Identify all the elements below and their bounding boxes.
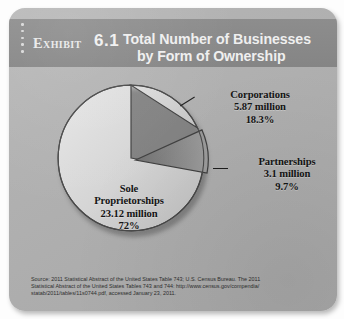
exhibit-card: Exhibit 6.1 Total Number of Businesses b…: [9, 8, 337, 311]
exhibit-number: 6.1: [94, 31, 119, 51]
label-sole-value: 23.12 million: [53, 208, 205, 220]
label-partnerships: Partnerships 3.1 million 9.7%: [227, 156, 337, 193]
leader-line-partnerships: [213, 168, 228, 169]
pie-slice-corporations: [131, 85, 198, 128]
label-sole-name-line1: Sole: [53, 183, 205, 195]
exhibit-label: Exhibit: [33, 35, 82, 52]
source-line-1: Source: 2011 Statistical Abstract of the…: [31, 276, 331, 283]
pie-chart: Corporations 5.87 million 18.3% Partners…: [9, 67, 337, 272]
exhibit-screenshot: Exhibit 6.1 Total Number of Businesses b…: [0, 0, 344, 319]
label-corporations: Corporations 5.87 million 18.3%: [195, 89, 325, 126]
source-line-3: statab/2011/tables/11s0744.pdf, accessed…: [31, 290, 331, 297]
label-corporations-percent: 18.3%: [195, 114, 325, 126]
label-partnerships-percent: 9.7%: [227, 181, 337, 193]
label-corporations-name: Corporations: [195, 89, 325, 101]
exhibit-header: Exhibit 6.1 Total Number of Businesses b…: [9, 19, 337, 67]
decorative-dots-icon: [21, 23, 28, 57]
exhibit-title: Total Number of Businesses by Form of Ow…: [123, 31, 337, 65]
label-sole-percent: 72%: [53, 220, 205, 232]
label-partnerships-value: 3.1 million: [227, 168, 337, 180]
exhibit-title-line1: Total Number of Businesses: [123, 31, 311, 47]
label-sole-proprietorships: Sole Proprietorships 23.12 million 72%: [53, 183, 205, 233]
label-partnerships-name: Partnerships: [227, 156, 337, 168]
label-corporations-value: 5.87 million: [195, 101, 325, 113]
exhibit-title-line2: by Form of Ownership: [123, 48, 337, 65]
source-note: Source: 2011 Statistical Abstract of the…: [31, 276, 331, 298]
label-sole-name-line2: Proprietorships: [53, 195, 205, 207]
source-line-2: Statistical Abstract of the United State…: [31, 283, 331, 290]
